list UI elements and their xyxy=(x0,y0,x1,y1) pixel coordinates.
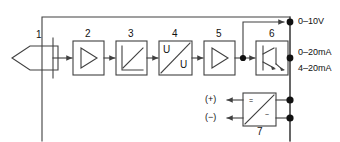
block-3-box xyxy=(116,41,147,75)
block-4-bottom-text: U xyxy=(180,60,187,70)
diagram-svg xyxy=(0,0,340,142)
block-7-bottom-text: ~ xyxy=(265,111,269,118)
terminal-dot-voltage-output xyxy=(287,19,294,26)
output-label-voltage: 0–10V xyxy=(298,17,324,26)
block-1-sensor-symbol xyxy=(12,46,58,70)
terminal-dot-supply-positive xyxy=(286,96,293,103)
diagram-canvas: 1 2 3 4 5 6 7 U U = ~ 0–10V 0–20mA 4–20m… xyxy=(0,0,340,142)
block-4-top-text: U xyxy=(163,45,170,55)
block-7-number: 7 xyxy=(257,127,263,137)
junction-dot-voltage-branch xyxy=(240,55,246,61)
supply-label-positive: (+) xyxy=(205,95,216,104)
enclosure-outline xyxy=(42,17,290,141)
block-3-number: 3 xyxy=(128,29,134,39)
output-label-current-4-20: 4–20mA xyxy=(298,64,332,73)
block-7-box xyxy=(243,93,276,126)
block-5-box xyxy=(204,41,235,75)
supply-label-negative: (−) xyxy=(205,113,216,122)
block-4-number: 4 xyxy=(172,29,178,39)
block-6-box xyxy=(256,41,288,75)
block-2-box xyxy=(73,41,104,75)
block-6-number: 6 xyxy=(269,29,275,39)
block-5-number: 5 xyxy=(216,29,222,39)
block-2-number: 2 xyxy=(85,29,91,39)
terminal-dot-supply-negative xyxy=(286,114,293,121)
block-1-number: 1 xyxy=(36,30,42,40)
output-label-current-0-20: 0–20mA xyxy=(298,48,332,57)
terminal-dot-current-output xyxy=(287,55,294,62)
block-7-top-text: = xyxy=(249,97,253,104)
